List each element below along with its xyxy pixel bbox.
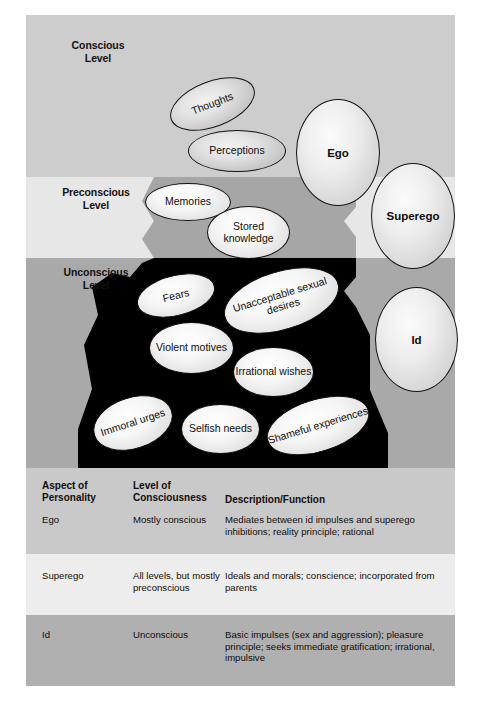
- table-row-ego: Aspect of Personality Level of Conscious…: [26, 468, 455, 554]
- bubble-immoral-urges-label: Immoral urges: [93, 405, 173, 441]
- personality-structure-table: Aspect of Personality Level of Conscious…: [26, 468, 455, 686]
- bubble-violent-motives: Violent motives: [149, 322, 234, 374]
- table-row-id: Id Unconscious Basic impulses (sex and a…: [26, 615, 455, 686]
- bubble-irrational-wishes-label: Irrational wishes: [234, 366, 313, 378]
- label-unconscious-line2: Level: [44, 279, 148, 292]
- bubble-perceptions-label: Perceptions: [189, 145, 285, 157]
- bubble-selfish-needs-label: Selfish needs: [182, 423, 259, 435]
- table-header-aspect-line2: Personality: [42, 492, 96, 503]
- label-preconscious-line2: Level: [44, 199, 148, 212]
- table-cell-aspect-ego: Ego: [42, 514, 134, 526]
- bubble-selfish-needs: Selfish needs: [181, 404, 260, 454]
- table-cell-level-id: Unconscious: [133, 629, 228, 641]
- label-conscious-level: Conscious Level: [50, 39, 146, 64]
- bubble-superego: Superego: [371, 163, 455, 269]
- table-header-level-line1: Level of: [133, 480, 171, 491]
- bubble-id: Id: [375, 287, 458, 392]
- table-cell-level-ego: Mostly conscious: [133, 514, 228, 526]
- bubble-perceptions: Perceptions: [188, 130, 286, 172]
- bubble-superego-label: Superego: [372, 210, 454, 222]
- label-preconscious-line1: Preconscious: [44, 186, 148, 199]
- bubble-ego: Ego: [296, 99, 380, 206]
- bubble-violent-motives-label: Violent motives: [150, 342, 233, 354]
- label-conscious-line2: Level: [50, 52, 146, 65]
- table-header-description: Description/Function: [225, 494, 447, 506]
- table-cell-description-superego: Ideals and morals; conscience; incorpora…: [225, 570, 447, 593]
- table-header-aspect: Aspect of Personality: [42, 480, 134, 504]
- table-cell-aspect-id: Id: [42, 629, 134, 641]
- freud-personality-structure-figure: Conscious Level Preconscious Level Uncon…: [0, 0, 486, 709]
- label-conscious-line1: Conscious: [50, 39, 146, 52]
- label-unconscious-line1: Unconscious: [44, 266, 148, 279]
- table-cell-level-superego: All levels, but mostly preconscious: [133, 570, 228, 593]
- bubble-memories-label: Memories: [146, 196, 230, 208]
- bubble-id-label: Id: [376, 334, 457, 346]
- label-unconscious-level: Unconscious Level: [44, 266, 148, 291]
- label-preconscious-level: Preconscious Level: [44, 186, 148, 211]
- table-row-superego: Superego All levels, but mostly preconsc…: [26, 554, 455, 615]
- table-header-level: Level of Consciousness: [133, 480, 228, 504]
- bubble-ego-label: Ego: [297, 147, 379, 159]
- bubble-stored-knowledge-label: Stored knowledge: [208, 221, 289, 244]
- table-header-level-line2: Consciousness: [133, 492, 207, 503]
- bubble-irrational-wishes: Irrational wishes: [233, 347, 314, 397]
- figure-canvas: Conscious Level Preconscious Level Uncon…: [26, 15, 455, 686]
- table-cell-aspect-superego: Superego: [42, 570, 134, 582]
- table-header-aspect-line1: Aspect of: [42, 480, 88, 491]
- bubble-stored-knowledge: Stored knowledge: [207, 206, 290, 259]
- table-cell-description-id: Basic impulses (sex and aggression); ple…: [225, 629, 447, 664]
- table-cell-description-ego: Mediates between id impulses and supereg…: [225, 514, 447, 537]
